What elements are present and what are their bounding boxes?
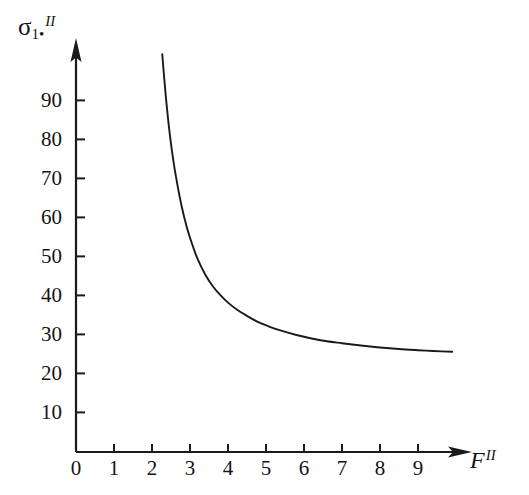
x-tick-label: 0 [64,458,88,479]
y-tick-label: 50 [22,246,62,267]
y-tick-label: 10 [22,402,62,423]
y-tick-label: 70 [22,168,62,189]
y-axis-title-subscript: 1• [31,26,44,42]
x-tick-label: 5 [254,458,278,479]
x-axis-title: FII [470,448,496,472]
x-tick-label: 3 [178,458,202,479]
y-axis-title: σ1•II [18,14,55,42]
y-tick-label: 30 [22,324,62,345]
x-axis-title-superscript: II [486,447,496,463]
y-tick-label: 80 [22,129,62,150]
x-tick-label: 1 [102,458,126,479]
x-tick-label: 9 [406,458,430,479]
y-tick-label: 90 [22,90,62,111]
y-axis-title-symbol: σ [18,13,31,40]
x-tick-label: 7 [330,458,354,479]
y-tick-label: 40 [22,285,62,306]
x-tick-label: 6 [292,458,316,479]
y-axis-title-superscript: II [45,13,55,29]
data-curve [162,54,452,352]
x-tick-label: 8 [368,458,392,479]
chart-plot-area [0,0,529,495]
x-tick-label: 2 [140,458,164,479]
x-axis-title-symbol: F [470,447,485,473]
x-axis-ticks [114,444,418,452]
y-tick-label: 60 [22,207,62,228]
x-tick-label: 4 [216,458,240,479]
y-tick-label: 20 [22,363,62,384]
chart-figure: σ1•II FII 10 20 30 40 50 60 70 80 90 0 1… [0,0,529,495]
y-axis-ticks [76,100,85,412]
